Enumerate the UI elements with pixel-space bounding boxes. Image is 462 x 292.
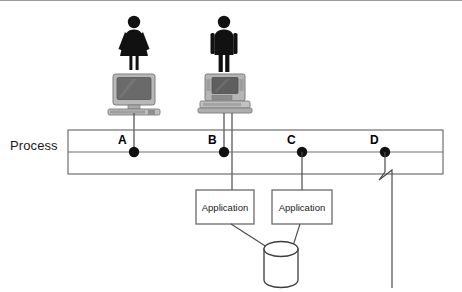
database-cylinder[interactable] (264, 242, 298, 288)
node-label-a: A (118, 133, 127, 147)
application-box-2-label: Application (277, 202, 327, 213)
connector-application-1-to-datastore (231, 224, 270, 249)
node-label-d: D (370, 133, 379, 147)
application-box-1-label: Application (200, 202, 250, 213)
male-user-icon (211, 16, 238, 72)
page-title: Process (10, 138, 58, 153)
workstation-computer-icon (198, 74, 252, 113)
female-user-icon (119, 16, 150, 70)
broken-line-from-d (379, 152, 392, 288)
node-label-b: B (208, 133, 217, 147)
process-flow-diagram (0, 0, 462, 292)
node-dot-b[interactable] (219, 147, 229, 157)
desktop-computer-icon (108, 74, 160, 115)
node-label-c: C (287, 133, 296, 147)
node-dot-a[interactable] (129, 147, 139, 157)
